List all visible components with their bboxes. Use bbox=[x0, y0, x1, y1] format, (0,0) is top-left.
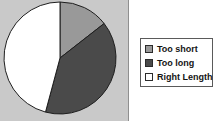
pie-chart-figure: Too short Too long Right Length bbox=[0, 0, 215, 121]
plot-area bbox=[0, 0, 129, 121]
chart-legend: Too short Too long Right Length bbox=[140, 38, 213, 87]
legend-item-right-length[interactable]: Right Length bbox=[145, 70, 212, 84]
legend-label-right-length: Right Length bbox=[157, 72, 213, 82]
swatch-too-short-icon bbox=[145, 45, 153, 53]
legend-item-too-short[interactable]: Too short bbox=[145, 42, 212, 56]
legend-label-too-long: Too long bbox=[157, 58, 194, 68]
legend-label-too-short: Too short bbox=[157, 44, 198, 54]
pie-chart bbox=[2, 1, 124, 119]
swatch-too-long-icon bbox=[145, 59, 153, 67]
swatch-right-length-icon bbox=[145, 73, 153, 81]
legend-item-too-long[interactable]: Too long bbox=[145, 56, 212, 70]
